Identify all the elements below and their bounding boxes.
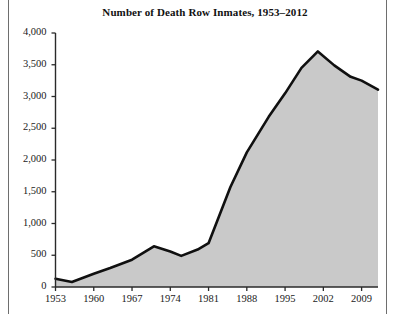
plot-area [56, 51, 379, 287]
y-tick-label: 4,000 [0, 26, 47, 37]
x-tick-label: 2009 [337, 293, 387, 304]
y-tick-label: 3,500 [0, 58, 47, 69]
y-tick-label: 500 [0, 248, 47, 259]
chart-figure: Number of Death Row Inmates, 1953–2012 0… [0, 0, 400, 314]
y-tick-label: 2,000 [0, 153, 47, 164]
y-tick-label: 3,000 [0, 90, 47, 101]
y-tick-label: 1,000 [0, 217, 47, 228]
y-tick-label: 0 [0, 280, 47, 291]
y-tick-label: 1,500 [0, 185, 47, 196]
y-tick-label: 2,500 [0, 121, 47, 132]
area-fill [56, 51, 379, 287]
area-chart-plot [0, 0, 400, 314]
